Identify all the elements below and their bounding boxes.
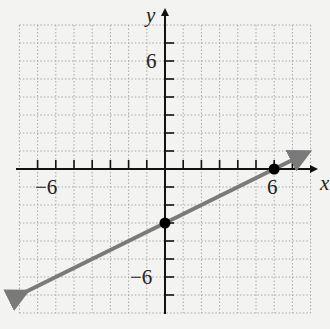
data-point: [269, 164, 280, 175]
x-tick-label-6: 6: [267, 175, 278, 199]
y-axis-label: y: [144, 3, 156, 27]
coordinate-plane: x y −6 6 6 −6: [0, 0, 330, 329]
x-tick-label-neg6: −6: [35, 175, 57, 199]
y-tick-label-6: 6: [146, 49, 157, 73]
y-axis: [165, 10, 174, 314]
x-axis-label: x: [319, 171, 330, 195]
y-tick-label-neg6: −6: [130, 265, 152, 289]
data-point: [160, 218, 171, 229]
